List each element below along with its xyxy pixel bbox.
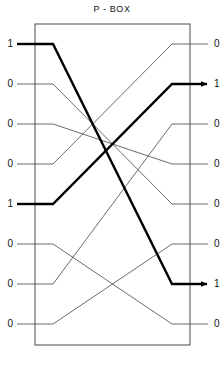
- input-label-4: 0: [1, 159, 13, 169]
- output-label-1: 0: [214, 39, 224, 49]
- input-label-3: 0: [1, 119, 13, 129]
- output-label-6: 0: [214, 239, 224, 249]
- thin-wire-layer: [35, 44, 190, 324]
- wire-7-to-3: [35, 124, 190, 284]
- p-box-outline: [35, 24, 190, 345]
- output-label-2: 1: [214, 79, 224, 89]
- output-label-8: 0: [214, 319, 224, 329]
- input-label-7: 0: [1, 279, 13, 289]
- terminal-stub-layer: [17, 44, 208, 324]
- input-label-8: 0: [1, 319, 13, 329]
- wire-5-to-2: [35, 84, 190, 204]
- output-label-5: 0: [214, 199, 224, 209]
- wire-4-to-1: [35, 44, 190, 164]
- input-label-1: 1: [1, 39, 13, 49]
- output-label-4: 0: [214, 159, 224, 169]
- output-label-7: 1: [214, 279, 224, 289]
- input-label-2: 0: [1, 79, 13, 89]
- permutation-canvas: [0, 0, 224, 366]
- output-label-3: 0: [214, 119, 224, 129]
- wire-8-to-6: [35, 244, 190, 324]
- input-label-6: 0: [1, 239, 13, 249]
- p-box-diagram: P - BOX 10001000 01000010: [0, 0, 224, 366]
- input-label-5: 1: [1, 199, 13, 209]
